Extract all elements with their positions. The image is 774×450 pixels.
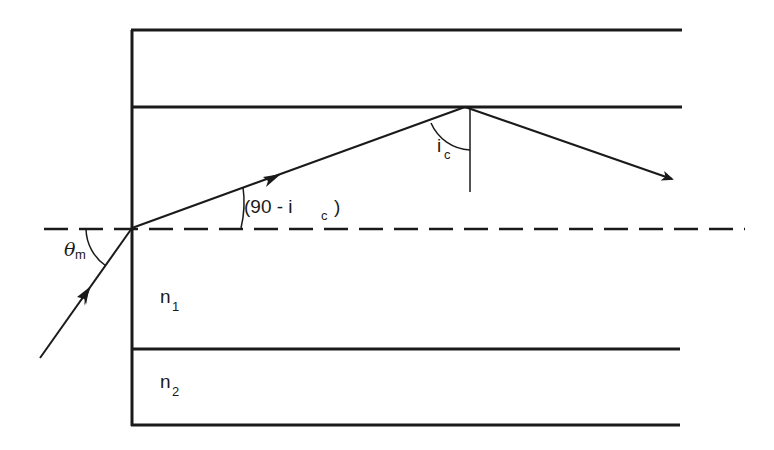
critical-angle-label: i c	[437, 135, 451, 162]
svg-text:c: c	[321, 208, 328, 223]
svg-text:2: 2	[172, 384, 179, 399]
cladding-index-label: n 2	[160, 371, 179, 399]
svg-text:n: n	[160, 286, 171, 307]
theta-m-arc	[86, 229, 106, 266]
svg-text:i: i	[437, 135, 441, 156]
svg-text:m: m	[75, 247, 86, 262]
theta-m-label: θ m	[64, 238, 86, 262]
reflected-ray	[465, 107, 672, 179]
svg-text:1: 1	[172, 299, 179, 314]
refracted-ray	[132, 107, 465, 228]
refraction-angle-label: (90 - i c )	[244, 196, 340, 223]
svg-text:c: c	[444, 147, 451, 162]
svg-text:): )	[334, 196, 340, 217]
core-index-label: n 1	[160, 286, 179, 314]
svg-text:n: n	[160, 371, 171, 392]
fiber-ray-diagram: θ m (90 - i c ) i c n 1 n 2	[0, 0, 774, 450]
svg-text:(90 - i: (90 - i	[244, 196, 293, 217]
